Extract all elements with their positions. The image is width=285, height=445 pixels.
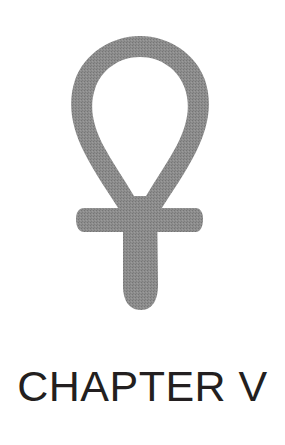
chapter-symbol-container xyxy=(0,0,285,330)
chapter-title: CHAPTER V xyxy=(17,365,268,408)
chapter-opening-page: CHAPTER V xyxy=(0,0,285,445)
ankh-glyph xyxy=(71,36,209,310)
ankh-icon xyxy=(0,0,285,330)
chapter-title-row: CHAPTER V xyxy=(0,356,285,416)
